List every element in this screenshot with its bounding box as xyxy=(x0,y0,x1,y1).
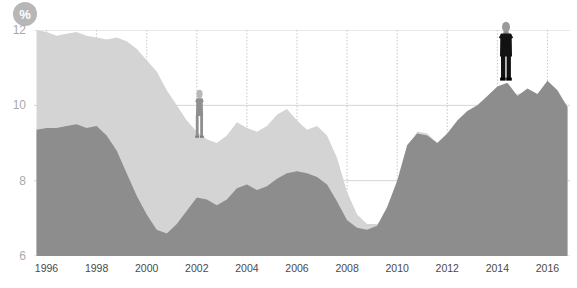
percent-glyph: % xyxy=(19,8,31,21)
y-tick-label: 6 xyxy=(19,250,26,262)
x-tick-label: 2014 xyxy=(486,263,509,274)
woman-figure xyxy=(191,89,208,141)
x-tick-label: 2000 xyxy=(135,263,158,274)
x-tick-label: 1996 xyxy=(35,263,58,274)
y-axis: 681012 xyxy=(0,30,30,256)
x-tick-label: 2006 xyxy=(285,263,308,274)
x-tick-label: 2002 xyxy=(185,263,208,274)
x-tick-label: 2012 xyxy=(436,263,459,274)
area-chart-svg xyxy=(34,30,570,256)
man-figure xyxy=(495,21,517,83)
x-tick-label: 2010 xyxy=(385,263,408,274)
chart-screenshot: % 681012 xyxy=(0,0,577,288)
x-tick-label: 2016 xyxy=(536,263,559,274)
y-tick-label: 10 xyxy=(13,99,26,111)
y-tick-label: 12 xyxy=(13,24,26,36)
plot-area xyxy=(34,30,570,256)
x-tick-label: 1998 xyxy=(85,263,108,274)
x-tick-label: 2008 xyxy=(335,263,358,274)
x-tick-label: 2004 xyxy=(235,263,258,274)
y-tick-label: 8 xyxy=(19,175,26,187)
x-axis: 1996199820002002200420062008201020122014… xyxy=(34,258,570,284)
